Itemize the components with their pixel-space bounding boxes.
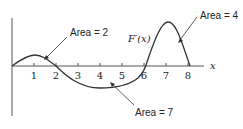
area-4-pointer (180, 17, 197, 40)
tick-label-5: 5 (119, 70, 125, 81)
area-2-pointer (46, 37, 67, 58)
tick-label-6: 6 (141, 70, 147, 81)
area-2-label: Area = 2 (70, 27, 109, 38)
tick-label-3: 3 (75, 70, 81, 81)
tick-label-8: 8 (185, 70, 191, 81)
tick-label-1: 1 (31, 70, 37, 81)
function-label: F′(x) (127, 33, 151, 44)
tick-label-7: 7 (163, 70, 169, 81)
graph-diagram: 1 2 3 4 5 6 7 8 x F′(x) Area = 2 Area = … (0, 0, 243, 129)
area-7-pointer (112, 84, 134, 105)
area-7-label: Area = 7 (135, 107, 174, 118)
x-axis-label: x (210, 60, 216, 71)
area-4-label: Area = 4 (200, 10, 239, 21)
tick-label-2: 2 (53, 70, 59, 81)
tick-label-4: 4 (97, 70, 103, 81)
